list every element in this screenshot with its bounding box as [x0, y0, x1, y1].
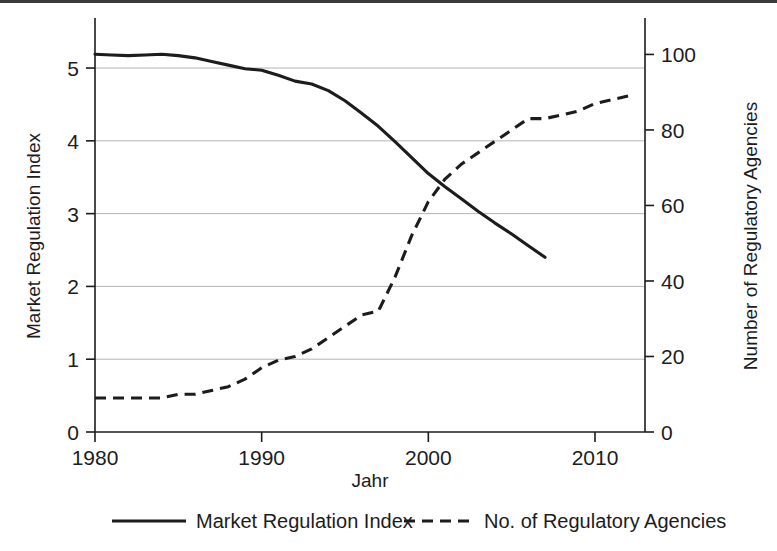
- right-tick-label: 100: [661, 43, 696, 66]
- x-tick-label: 2000: [405, 446, 452, 469]
- right-tick-label: 80: [661, 119, 684, 142]
- right-axis-tick-labels: 020406080100: [661, 43, 696, 444]
- legend: Market Regulation Index No. of Regulator…: [112, 510, 726, 532]
- series-market-regulation-index: [95, 54, 545, 257]
- legend-entry-market-regulation-index: Market Regulation Index: [112, 510, 413, 532]
- gridlines: [95, 68, 645, 359]
- right-axis-ticks: [645, 54, 654, 432]
- left-tick-label: 4: [67, 130, 79, 153]
- x-tick-label: 1980: [72, 446, 119, 469]
- right-tick-label: 20: [661, 345, 684, 368]
- right-tick-label: 0: [661, 421, 673, 444]
- left-tick-label: 5: [67, 57, 79, 80]
- legend-entry-no-of-regulatory-agencies: No. of Regulatory Agencies: [404, 510, 726, 532]
- left-axis-title: Market Regulation Index: [23, 133, 44, 339]
- right-axis-title: Number of Regulatory Agencies: [740, 102, 761, 370]
- legend-label-no-of-regulatory-agencies: No. of Regulatory Agencies: [484, 510, 726, 532]
- left-axis-ticks: [86, 68, 95, 432]
- legend-label-market-regulation-index: Market Regulation Index: [196, 510, 413, 532]
- figure-container: 012345 020406080100 1980199020002010 Mar…: [0, 0, 777, 551]
- right-tick-label: 60: [661, 194, 684, 217]
- left-tick-label: 2: [67, 275, 79, 298]
- axis-spines: [95, 18, 645, 432]
- left-axis-tick-labels: 012345: [67, 57, 79, 444]
- right-tick-label: 40: [661, 270, 684, 293]
- chart-canvas: 012345 020406080100 1980199020002010 Mar…: [0, 0, 777, 551]
- x-axis-title: Jahr: [352, 470, 390, 491]
- left-tick-label: 0: [67, 421, 79, 444]
- x-tick-label: 2010: [572, 446, 619, 469]
- data-series: [95, 54, 628, 398]
- left-tick-label: 1: [67, 348, 79, 371]
- bottom-axis-tick-labels: 1980199020002010: [72, 446, 619, 469]
- bottom-axis-ticks: [95, 432, 595, 442]
- x-tick-label: 1990: [238, 446, 285, 469]
- left-tick-label: 3: [67, 203, 79, 226]
- top-page-rule: [0, 0, 777, 3]
